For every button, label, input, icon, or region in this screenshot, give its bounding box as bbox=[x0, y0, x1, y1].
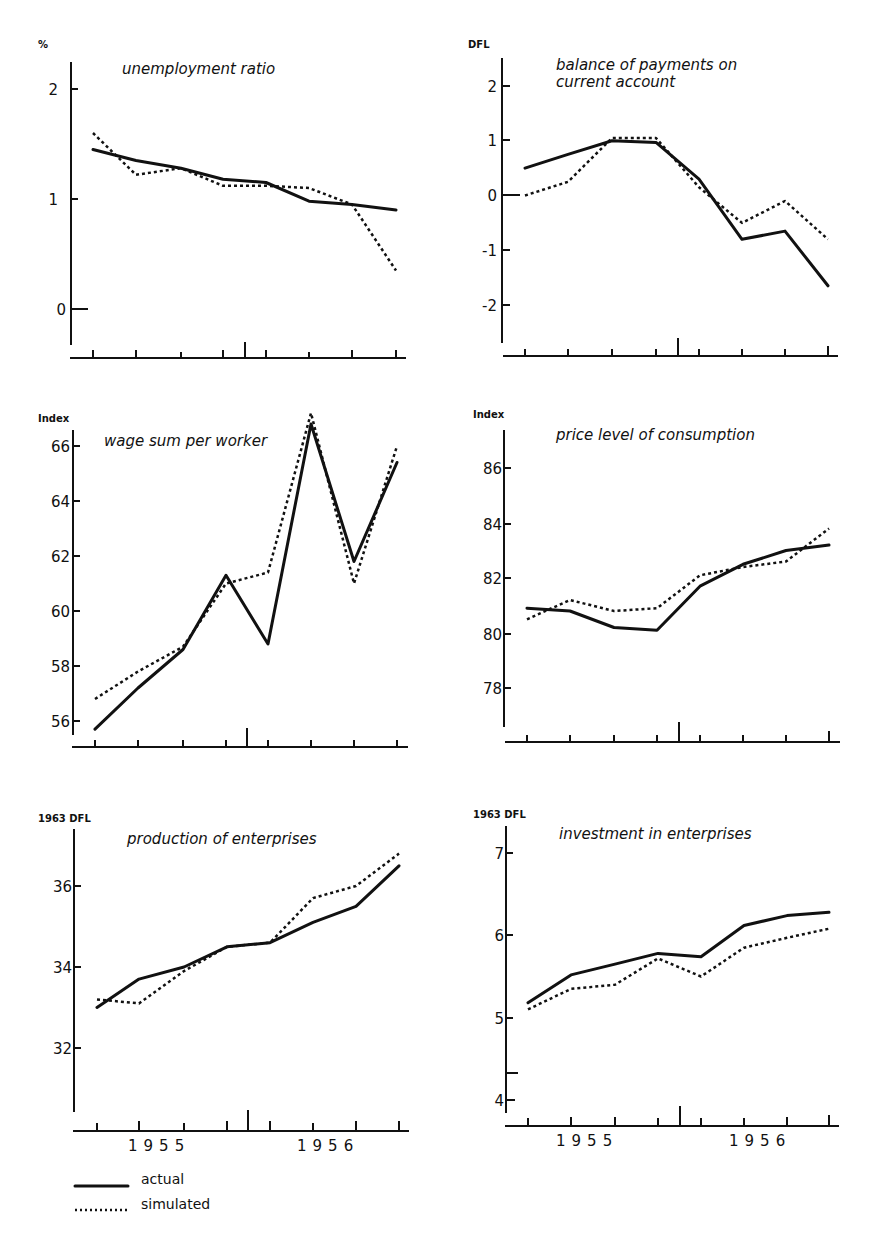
x-label-1956: 1956 bbox=[297, 1137, 359, 1155]
y-axis-unit: DFL bbox=[468, 39, 490, 50]
y-tick-label: 34 bbox=[53, 959, 72, 977]
y-tick-label: 2 bbox=[48, 81, 58, 99]
x-ticks bbox=[97, 1110, 399, 1131]
y-tick-label: -2 bbox=[482, 297, 497, 315]
chart-title: price level of consumption bbox=[555, 426, 755, 444]
simulated-line bbox=[97, 854, 399, 1004]
chart-title-line-1: balance of payments on bbox=[556, 56, 737, 74]
y-tick-label: 58 bbox=[51, 658, 70, 676]
chart-production-of-enterprises: 1963 DFL production of enterprises 36 34… bbox=[38, 813, 409, 1155]
simulated-line bbox=[93, 133, 396, 271]
actual-line bbox=[525, 141, 828, 286]
y-ticks: 86 84 82 80 78 bbox=[483, 460, 511, 698]
x-ticks bbox=[528, 1106, 829, 1126]
figure-canvas: % unemployment ratio 2 1 0 DFL balan bbox=[0, 0, 881, 1249]
legend: actual simulated bbox=[75, 1171, 210, 1212]
y-tick-label: 1 bbox=[487, 132, 497, 150]
y-tick-label: 0 bbox=[56, 301, 66, 319]
y-axis-unit: Index bbox=[473, 409, 505, 420]
y-ticks: 66 64 62 60 58 56 bbox=[51, 438, 80, 731]
chart-balance-of-payments: DFL balance of payments on current accou… bbox=[468, 39, 838, 356]
x-ticks bbox=[527, 722, 829, 742]
y-tick-label: 66 bbox=[51, 438, 70, 456]
y-tick-label: 2 bbox=[487, 78, 497, 96]
chart-wage-sum-per-worker: Index wage sum per worker 66 64 62 60 58… bbox=[38, 413, 408, 747]
y-tick-label: 60 bbox=[51, 603, 70, 621]
chart-title: investment in enterprises bbox=[559, 825, 752, 843]
x-ticks bbox=[525, 338, 828, 356]
y-tick-label: 36 bbox=[53, 878, 72, 896]
chart-title: production of enterprises bbox=[126, 830, 317, 848]
y-ticks: 2 1 0 bbox=[48, 81, 88, 319]
y-tick-label: 80 bbox=[483, 626, 502, 644]
y-tick-label: -1 bbox=[482, 242, 497, 260]
y-tick-label: 62 bbox=[51, 548, 70, 566]
y-tick-label: 6 bbox=[494, 927, 504, 945]
y-axis-unit: % bbox=[38, 39, 48, 50]
simulated-line bbox=[527, 529, 829, 620]
y-tick-label: 82 bbox=[483, 570, 502, 588]
simulated-line bbox=[528, 929, 829, 1010]
chart-price-level-of-consumption: Index price level of consumption 86 84 8… bbox=[473, 409, 840, 742]
y-tick-label: 32 bbox=[53, 1040, 72, 1058]
chart-investment-in-enterprises: 1963 DFL investment in enterprises 7 6 5… bbox=[473, 809, 839, 1150]
x-label-1955: 1955 bbox=[128, 1137, 190, 1155]
x-label-1956: 1956 bbox=[729, 1132, 791, 1150]
actual-line bbox=[95, 424, 397, 729]
actual-line bbox=[527, 545, 829, 630]
y-axis-unit: Index bbox=[38, 413, 70, 424]
chart-title-line-2: current account bbox=[556, 73, 676, 91]
x-ticks bbox=[93, 342, 396, 358]
y-tick-label: 64 bbox=[51, 493, 70, 511]
y-tick-label: 1 bbox=[48, 191, 58, 209]
y-tick-label: 56 bbox=[51, 713, 70, 731]
y-tick-label: 0 bbox=[487, 187, 497, 205]
y-tick-label: 7 bbox=[494, 845, 504, 863]
x-ticks bbox=[95, 728, 397, 747]
y-axis-unit: 1963 DFL bbox=[473, 809, 526, 820]
y-tick-label: 78 bbox=[483, 680, 502, 698]
y-tick-label: 86 bbox=[483, 460, 502, 478]
y-axis-unit: 1963 DFL bbox=[38, 813, 91, 824]
chart-unemployment-ratio: % unemployment ratio 2 1 0 bbox=[38, 39, 406, 358]
y-tick-label: 84 bbox=[483, 516, 502, 534]
y-ticks: 36 34 32 bbox=[53, 878, 81, 1058]
y-tick-label: 4 bbox=[494, 1092, 504, 1110]
chart-title: unemployment ratio bbox=[122, 60, 275, 78]
legend-actual-label: actual bbox=[141, 1171, 184, 1187]
chart-title: wage sum per worker bbox=[104, 432, 268, 450]
y-tick-label: 5 bbox=[494, 1010, 504, 1028]
actual-line bbox=[93, 150, 396, 211]
x-label-1955: 1955 bbox=[556, 1132, 618, 1150]
legend-simulated-label: simulated bbox=[141, 1196, 210, 1212]
